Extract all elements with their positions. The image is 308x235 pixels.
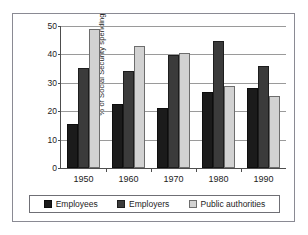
- bar: [168, 55, 179, 168]
- plot-area: % of Social Security spending 0102030405…: [60, 26, 286, 169]
- y-axis-tick-label: 40: [21, 49, 57, 59]
- legend-swatch-icon: [189, 200, 197, 208]
- bar: [224, 86, 235, 168]
- legend-label: Employers: [129, 199, 169, 209]
- bar-group: [157, 26, 190, 168]
- chart-legend: EmployeesEmployersPublic authorities: [29, 195, 280, 213]
- bar: [258, 66, 269, 168]
- bar: [157, 108, 168, 168]
- x-axis-tick-mark: [151, 168, 152, 172]
- bar: [134, 46, 145, 168]
- legend-item[interactable]: Employees: [44, 199, 98, 209]
- y-axis-tick-mark: [58, 168, 61, 169]
- bar: [213, 41, 224, 168]
- bar: [78, 68, 89, 168]
- bar: [247, 88, 258, 168]
- x-axis-tick-mark: [196, 168, 197, 172]
- legend-label: Public authorities: [201, 199, 266, 209]
- legend-label: Employees: [56, 199, 98, 209]
- bar: [67, 124, 78, 168]
- y-axis-tick-label: 50: [21, 21, 57, 31]
- bar: [112, 104, 123, 168]
- legend-item[interactable]: Employers: [117, 199, 169, 209]
- y-axis-tick-label: 20: [21, 106, 57, 116]
- bar-group: [67, 26, 100, 168]
- x-axis-tick-label: 1990: [234, 174, 294, 184]
- bar: [269, 96, 280, 168]
- bar: [179, 53, 190, 168]
- y-axis-tick-label: 10: [21, 135, 57, 145]
- y-axis-tick-label: 30: [21, 78, 57, 88]
- bar: [123, 71, 134, 168]
- bar: [89, 29, 100, 168]
- legend-item[interactable]: Public authorities: [189, 199, 266, 209]
- x-axis-tick-mark: [106, 168, 107, 172]
- legend-swatch-icon: [117, 200, 125, 208]
- bar-group: [112, 26, 145, 168]
- bar-group: [202, 26, 235, 168]
- bar: [202, 92, 213, 168]
- x-axis-tick-mark: [241, 168, 242, 172]
- bar-group: [247, 26, 280, 168]
- chart-frame: % of Social Security spending 0102030405…: [12, 13, 295, 222]
- legend-swatch-icon: [44, 200, 52, 208]
- y-axis-tick-label: 0: [21, 163, 57, 173]
